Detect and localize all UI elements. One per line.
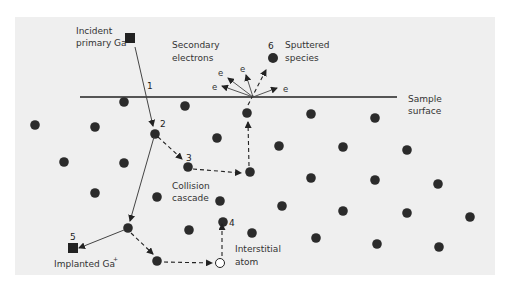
cascade-segment <box>193 169 241 173</box>
lattice-atom <box>402 145 412 155</box>
ion-path-segment <box>79 230 124 248</box>
lattice-atom <box>245 167 255 177</box>
lattice-atom <box>247 228 257 238</box>
step-number-6: 6 <box>268 41 274 51</box>
implanted-ga-ion <box>68 243 78 253</box>
collision-cascade-line2: cascade <box>172 193 209 203</box>
secondary-electrons-line1: Secondary <box>172 40 220 50</box>
lattice-atom <box>30 120 40 130</box>
lattice-atom <box>184 225 194 235</box>
fib-interaction-diagram: e e e e 1 2 3 4 5 6 Incident primary Ga … <box>0 0 505 292</box>
lattice-atom <box>274 141 284 151</box>
incident-label-line1: Incident <box>76 26 113 36</box>
electron-ray <box>246 75 253 97</box>
secondary-electron-rays <box>222 75 277 97</box>
electron-label: e <box>240 64 245 74</box>
lattice-atom <box>123 223 133 233</box>
electron-label: e <box>283 84 288 94</box>
lattice-atom <box>218 217 228 227</box>
step-number-4: 4 <box>229 218 235 228</box>
cascade-segment <box>248 70 266 105</box>
cascade-segment <box>248 122 249 166</box>
lattice-atom <box>212 133 222 143</box>
step-number-2: 2 <box>160 119 166 129</box>
collision-cascade-line1: Collision <box>172 181 210 191</box>
electron-label: e <box>218 68 223 78</box>
lattice-atom <box>306 109 316 119</box>
incident-label-line2: primary Ga <box>76 38 127 48</box>
sample-surface-line1: Sample <box>408 94 442 104</box>
step-number-1: 1 <box>147 81 153 91</box>
cascade-segment <box>158 137 182 159</box>
cascade-segment <box>164 262 212 263</box>
lattice-atom <box>277 201 287 211</box>
lattice-atom <box>372 239 382 249</box>
lattice-atom <box>152 192 162 202</box>
ion-path-segment <box>130 137 154 221</box>
lattice-atom <box>306 173 316 183</box>
lattice-atom <box>119 158 129 168</box>
electron-ray <box>228 78 253 97</box>
lattice-atom <box>402 208 412 218</box>
collision-cascade-path <box>131 70 266 263</box>
sputtered-species-line1: Sputtered <box>285 40 329 50</box>
sputtered-atom <box>268 53 278 63</box>
incident-label-text: primary Ga <box>76 38 127 48</box>
lattice-atom <box>90 122 100 132</box>
primary-ion-path <box>79 47 154 248</box>
lattice-atom <box>433 179 443 189</box>
lattice-atom <box>119 97 129 107</box>
lattice-atom <box>90 188 100 198</box>
interstitial-atom <box>216 259 225 268</box>
lattice-atom <box>465 212 475 222</box>
electron-ray <box>222 86 253 97</box>
electron-label: e <box>212 82 217 92</box>
implanted-ga-label: Implanted Ga <box>54 259 115 269</box>
lattice-atom <box>183 162 193 172</box>
lattice-atom <box>242 108 252 118</box>
lattice-atom <box>338 206 348 216</box>
lattice-atom <box>152 256 162 266</box>
interstitial-atom-line2: atom <box>235 257 258 267</box>
implanted-ga-superscript: + <box>113 255 118 262</box>
interstitial-atom-line1: Interstitial <box>235 244 281 254</box>
lattice-atom <box>370 113 380 123</box>
lattice-atom <box>215 196 225 206</box>
cascade-segment <box>131 233 153 254</box>
lattice-atom <box>59 157 69 167</box>
lattice-atom <box>180 101 190 111</box>
lattice-atom <box>338 142 348 152</box>
sample-surface-line2: surface <box>408 106 442 116</box>
sputtered-species-line2: species <box>285 53 319 63</box>
secondary-electrons-line2: electrons <box>172 53 214 63</box>
step-number-3: 3 <box>186 153 192 163</box>
lattice-atom <box>434 242 444 252</box>
lattice-atom <box>311 233 321 243</box>
lattice-atom <box>370 175 380 185</box>
step-number-5: 5 <box>70 232 76 242</box>
